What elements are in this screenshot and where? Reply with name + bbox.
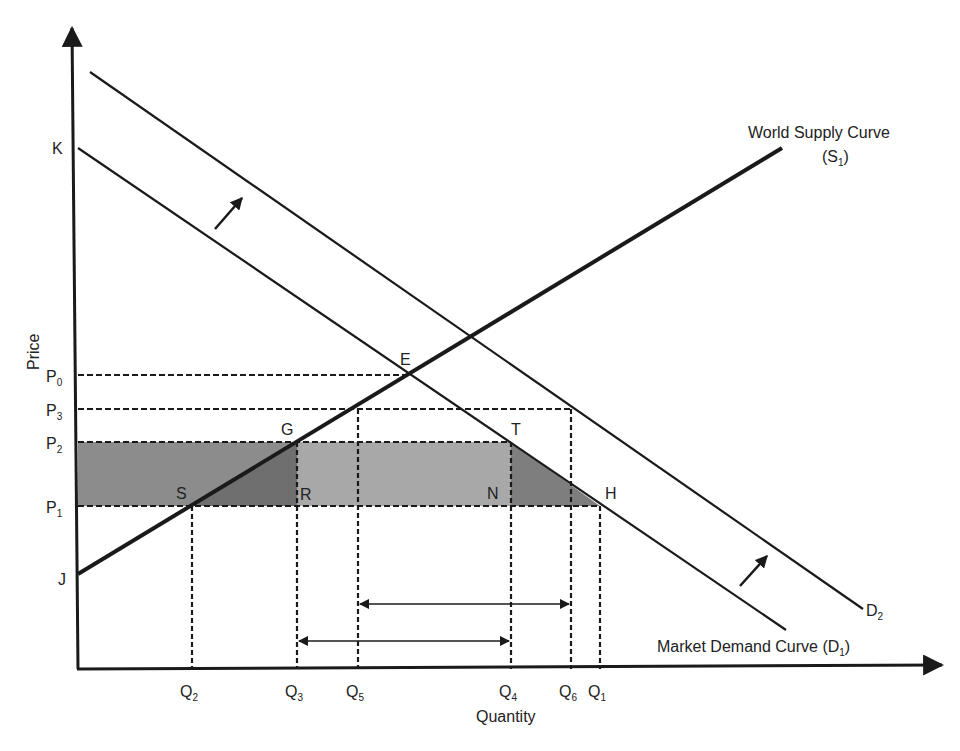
shade-middle-band [297, 442, 511, 506]
price-label-P1: P1 [46, 499, 63, 519]
quantity-label-Q3: Q3 [285, 683, 303, 703]
price-label-P0: P0 [46, 368, 63, 388]
market-demand-label: Market Demand Curve (D1) [657, 638, 850, 658]
demand-shift-arrow-icon [215, 198, 242, 229]
point-label-S: S [176, 485, 187, 502]
quantity-label-Q5: Q5 [346, 683, 364, 703]
price-level-labels: P0P3P2P1 [46, 368, 63, 519]
world-supply-label: World Supply Curve [748, 124, 890, 141]
point-labels: KJEGSRTNH [52, 140, 617, 588]
quantity-label-Q1: Q1 [588, 683, 606, 703]
point-label-H: H [605, 485, 617, 502]
point-label-K: K [52, 140, 63, 157]
demand-curve-d2 [90, 72, 863, 609]
point-label-G: G [281, 421, 293, 438]
supply-demand-diagram: Price Quantity World Supply Curve (S1) M… [0, 0, 960, 751]
quantity-label-Q6: Q6 [559, 683, 577, 703]
y-axis [72, 28, 78, 669]
point-label-R: R [300, 486, 312, 503]
point-label-N: N [487, 485, 499, 502]
price-label-P2: P2 [46, 435, 63, 455]
demand-shift-arrow-icon [740, 556, 767, 586]
d2-label: D2 [866, 602, 884, 622]
quantity-label-Q4: Q4 [499, 683, 517, 703]
x-axis-label: Quantity [476, 708, 536, 725]
point-label-T: T [511, 421, 521, 438]
curves [78, 72, 863, 630]
quantity-label-Q2: Q2 [180, 683, 198, 703]
dashed-guides [78, 375, 600, 669]
point-label-J: J [58, 571, 66, 588]
market-demand-curve-d1 [78, 148, 786, 630]
x-axis [77, 665, 942, 669]
world-supply-sub-label: (S1) [822, 148, 849, 168]
world-supply-curve [78, 148, 782, 574]
y-axis-label: Price [25, 333, 42, 370]
labels: Price Quantity World Supply Curve (S1) M… [25, 124, 890, 725]
shaded-regions [78, 442, 600, 506]
quantity-level-labels: Q2Q3Q5Q4Q6Q1 [180, 683, 606, 703]
point-label-E: E [400, 351, 411, 368]
price-label-P3: P3 [46, 402, 63, 422]
